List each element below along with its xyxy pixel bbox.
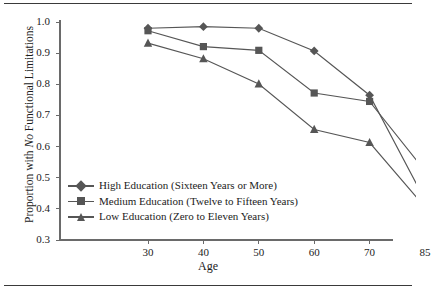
y-axis-title-italic: No <box>23 134 35 147</box>
legend-label: High Education (Sixteen Years or More) <box>99 178 277 194</box>
y-axis-title: Proportion with No Functional Limitation… <box>23 20 36 230</box>
diamond-marker-icon <box>199 22 208 31</box>
legend-item-2[interactable]: Medium Education (Twelve to Fifteen Year… <box>68 194 298 210</box>
legend-label: Medium Education (Twelve to Fifteen Year… <box>99 194 298 210</box>
legend-label: Low Education (Zero to Eleven Years) <box>99 209 269 225</box>
triangle-marker-icon <box>77 213 85 221</box>
legend-swatch <box>68 180 94 192</box>
legend-swatch <box>68 211 94 223</box>
y-tick-label: 0.3 <box>24 234 50 245</box>
legend-item-3[interactable]: Low Education (Zero to Eleven Years) <box>68 209 298 225</box>
y-axis-title-prefix: Proportion with <box>23 148 35 223</box>
square-marker-icon <box>311 89 318 96</box>
series-line <box>148 27 416 200</box>
x-axis-title: Age <box>0 259 416 274</box>
x-tick-label: 30 <box>133 247 163 258</box>
x-tick-label: 50 <box>244 247 274 258</box>
triangle-marker-icon <box>255 79 263 87</box>
legend-item-1[interactable]: High Education (Sixteen Years or More) <box>68 178 298 194</box>
x-tick-label: 40 <box>188 247 218 258</box>
x-tick-label: 85 <box>410 247 435 258</box>
square-marker-icon <box>144 27 151 34</box>
x-tick-label: 60 <box>299 247 329 258</box>
x-tick-label: 70 <box>355 247 385 258</box>
square-marker-icon <box>200 43 207 50</box>
y-axis-title-suffix: Functional Limitations <box>23 26 35 134</box>
series-2 <box>144 27 416 174</box>
triangle-marker-icon <box>310 125 318 133</box>
square-marker-icon <box>255 47 262 54</box>
chart-legend: High Education (Sixteen Years or More)Me… <box>68 178 298 225</box>
diamond-marker-icon <box>254 24 263 33</box>
square-marker-icon <box>77 197 85 205</box>
square-marker-icon <box>366 98 373 105</box>
triangle-marker-icon <box>144 39 152 47</box>
diamond-marker-icon <box>75 180 86 191</box>
legend-swatch <box>68 195 94 207</box>
